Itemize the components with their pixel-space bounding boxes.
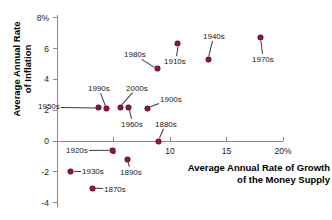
x-tick <box>226 137 227 141</box>
label-leader-line <box>176 47 178 56</box>
label-leader-line <box>128 162 130 167</box>
point-label: 1910s <box>164 57 186 66</box>
y-tick <box>53 79 57 80</box>
x-tick-label: 20% <box>269 146 297 156</box>
chart-page: Average Annual Rate of Inflation Average… <box>0 0 332 220</box>
y-tick <box>53 171 57 172</box>
x-tick-label: 15 <box>213 146 241 156</box>
label-leader-line <box>74 171 81 172</box>
y-tick-label: -2 <box>0 167 49 177</box>
y-tick-label: 0 <box>0 136 49 146</box>
y-tick-label: 4 <box>0 74 49 84</box>
label-leader-line <box>208 41 213 57</box>
point-label: 1970s <box>252 55 274 64</box>
point-label: 1880s <box>155 120 177 129</box>
point-label: 1960s <box>121 120 143 129</box>
plot-area: -4-202468%5101520%1980s1910s1940s1970s19… <box>0 0 332 220</box>
label-leader-line <box>142 59 155 68</box>
x-tick-label: 10 <box>156 146 184 156</box>
label-leader-line <box>95 188 103 189</box>
data-point <box>175 41 180 46</box>
y-tick <box>53 48 57 49</box>
label-leader-line <box>61 107 96 108</box>
data-point <box>206 57 211 62</box>
point-label: 1900s <box>160 95 182 104</box>
point-label: 1940s <box>203 32 225 41</box>
point-label: 1870s <box>104 185 126 194</box>
y-tick <box>53 141 57 142</box>
y-tick <box>53 17 57 18</box>
data-point <box>258 35 263 40</box>
label-leader-line <box>159 129 164 139</box>
label-leader-line <box>122 92 133 105</box>
x-tick <box>113 137 114 141</box>
label-leader-line <box>129 110 132 119</box>
point-label: 1920s <box>66 146 88 155</box>
point-label: 1890s <box>120 168 142 177</box>
data-point <box>156 139 161 144</box>
label-leader-line <box>100 93 106 106</box>
data-point <box>118 105 123 110</box>
y-tick-label: -4 <box>0 198 49 208</box>
data-point <box>90 186 95 191</box>
data-point <box>68 169 73 174</box>
y-tick-label: 8% <box>0 13 49 23</box>
label-leader-line <box>261 41 264 54</box>
point-label: 1980s <box>124 50 146 59</box>
y-tick <box>53 202 57 203</box>
data-point <box>104 106 109 111</box>
point-label: 2000s <box>126 84 148 93</box>
data-point <box>96 105 101 110</box>
point-label: 1990s <box>88 84 110 93</box>
y-tick-label: 6 <box>0 44 49 54</box>
x-tick <box>283 137 284 141</box>
data-point <box>155 66 160 71</box>
data-point <box>110 148 115 153</box>
x-tick <box>170 137 171 141</box>
data-point <box>125 157 130 162</box>
label-leader-line <box>150 103 159 107</box>
point-label: 1950s <box>38 102 60 111</box>
point-label: 1930s <box>82 167 104 176</box>
